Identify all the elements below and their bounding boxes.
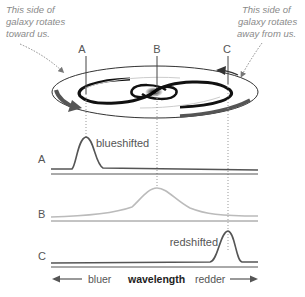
note-right: This side of galaxy rotates away from us… [237,4,297,39]
svg-text:galaxy rotates: galaxy rotates [6,16,65,27]
spectrum-b: B [38,188,258,221]
svg-text:galaxy rotates: galaxy rotates [238,16,297,27]
galaxy-doppler-diagram: This side of galaxy rotates toward us. T… [0,0,305,297]
note-left: This side of galaxy rotates toward us. [6,4,65,39]
svg-text:C: C [38,250,46,262]
axis-redder: redder [195,273,226,285]
spectrum-c: C redshifted [38,231,258,267]
spectrum-a: A blueshifted [38,137,258,174]
svg-text:away from us.: away from us. [237,28,296,39]
blueshifted-label: blueshifted [96,137,149,149]
svg-text:C: C [223,43,231,55]
svg-text:toward us.: toward us. [6,28,50,39]
galaxy [52,66,258,118]
svg-text:A: A [38,153,46,165]
svg-text:B: B [38,208,45,220]
svg-text:B: B [153,43,160,55]
wavelength-axis: bluer wavelength redder [52,273,258,285]
note-left-pointer [20,44,62,71]
axis-bluer: bluer [88,273,112,285]
svg-text:A: A [78,43,86,55]
axis-title: wavelength [127,273,185,285]
svg-text:This side of: This side of [6,4,56,15]
svg-text:This side of: This side of [242,4,292,15]
marker-b: B [153,43,160,188]
redshifted-label: redshifted [170,236,218,248]
note-right-pointer [242,43,262,75]
